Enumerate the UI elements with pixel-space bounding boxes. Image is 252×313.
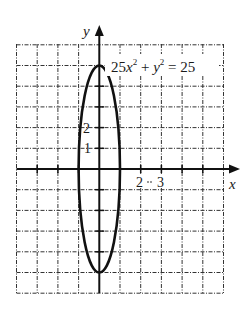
ellipse-graph: y x 2 1 2 3 25x2 + y2 = 25	[0, 0, 252, 313]
x-axis-label: x	[228, 176, 236, 192]
x-tick-label-3: 3	[157, 175, 164, 190]
y-axis-arrow-icon	[95, 25, 104, 36]
y-tick-label-2: 2	[83, 121, 90, 136]
equation-label: 25x2 + y2 = 25	[111, 57, 195, 75]
y-axis-label: y	[81, 23, 90, 39]
x-axis-arrow-icon	[229, 165, 240, 174]
eq-term-a: 25x	[111, 59, 133, 75]
eq-rhs: = 25	[164, 59, 195, 75]
y-tick-label-1: 1	[84, 141, 91, 156]
x-tick-label-2: 2	[136, 175, 143, 190]
